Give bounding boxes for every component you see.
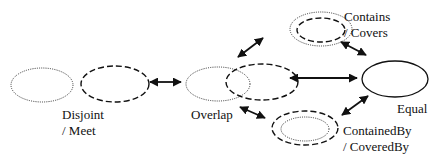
disjoint-shapes xyxy=(11,66,149,102)
equal-shapes xyxy=(362,61,428,97)
label-covers: / Covers xyxy=(344,26,388,40)
overlap-shapes xyxy=(186,64,298,101)
label-meet: / Meet xyxy=(62,124,96,138)
arrow-containedby-equal xyxy=(342,96,368,115)
arrow-overlap-containedby xyxy=(240,107,265,118)
label-equal: Equal xyxy=(397,102,427,116)
arrow-overlap-contains xyxy=(238,38,263,57)
contains-shapes xyxy=(290,12,352,46)
label-disjoint: Disjoint xyxy=(62,108,104,122)
label-coveredby: / CoveredBy xyxy=(343,140,409,154)
label-contains: Contains xyxy=(344,10,390,24)
transition-arrows xyxy=(150,38,368,118)
arrow-contains-equal xyxy=(341,42,366,55)
label-containedby: ContainedBy xyxy=(343,124,412,138)
containedby-shapes xyxy=(272,111,338,145)
label-overlap: Overlap xyxy=(191,108,233,122)
